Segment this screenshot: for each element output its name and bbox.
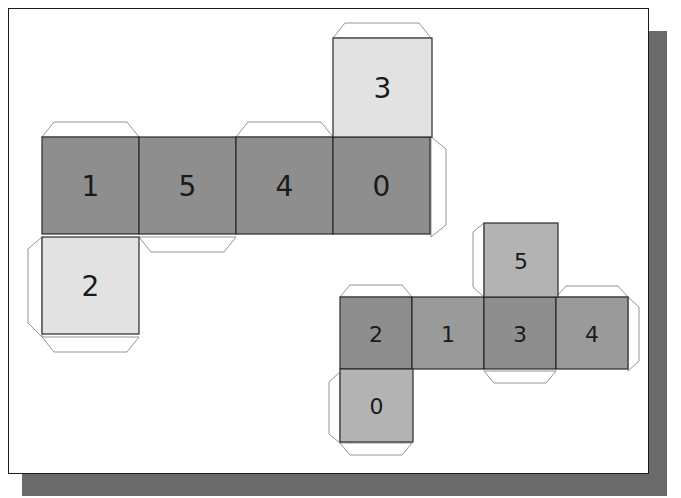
glue-tab bbox=[340, 443, 412, 455]
glue-tab bbox=[42, 337, 139, 352]
face-label: 0 bbox=[373, 170, 391, 203]
face-label: 1 bbox=[82, 170, 100, 203]
cube-face-4: 4 bbox=[556, 297, 628, 369]
glue-tab bbox=[556, 286, 628, 297]
glue-tab bbox=[431, 137, 446, 237]
cube-face-2: 2 bbox=[340, 297, 412, 369]
glue-tab bbox=[28, 237, 42, 337]
glue-tab bbox=[473, 223, 484, 297]
face-label: 1 bbox=[441, 322, 455, 347]
cube-face-2: 2 bbox=[42, 237, 139, 334]
glue-tab bbox=[484, 371, 556, 383]
glue-tab bbox=[628, 297, 639, 371]
cube-face-0: 0 bbox=[340, 369, 413, 442]
net-right: 213450 bbox=[340, 223, 628, 442]
face-label: 3 bbox=[513, 322, 527, 347]
face-label: 3 bbox=[374, 72, 392, 105]
face-label: 2 bbox=[369, 322, 383, 347]
cube-face-5: 5 bbox=[139, 137, 236, 234]
cube-nets-diagram: 154032213450 bbox=[0, 0, 681, 498]
face-label: 5 bbox=[514, 249, 528, 274]
cube-face-4: 4 bbox=[236, 137, 333, 234]
face-label: 2 bbox=[82, 270, 100, 303]
cube-face-3: 3 bbox=[484, 297, 556, 369]
face-label: 5 bbox=[179, 170, 197, 203]
face-label: 4 bbox=[585, 322, 599, 347]
face-label: 0 bbox=[370, 394, 384, 419]
glue-tab bbox=[139, 237, 236, 252]
face-label: 4 bbox=[276, 170, 294, 203]
cube-face-5: 5 bbox=[484, 223, 558, 297]
glue-tab bbox=[236, 122, 333, 137]
glue-tab bbox=[340, 285, 412, 297]
glue-tab bbox=[42, 122, 139, 137]
glue-tab bbox=[329, 372, 340, 443]
cube-face-1: 1 bbox=[42, 137, 139, 234]
cube-face-1: 1 bbox=[412, 297, 484, 369]
glue-tab bbox=[333, 23, 431, 38]
cube-face-3: 3 bbox=[333, 38, 432, 137]
cube-face-0: 0 bbox=[333, 137, 430, 234]
